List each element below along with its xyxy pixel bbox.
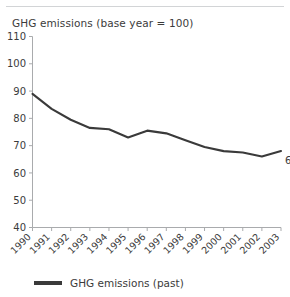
y-tick-label: 70 xyxy=(13,140,26,151)
x-tick-label: 1990 xyxy=(8,231,33,256)
line-chart-plot: 4050607080901001101990199119921993199419… xyxy=(0,0,290,297)
y-tick-label: 90 xyxy=(13,86,26,97)
x-tick-label: 1996 xyxy=(123,231,148,256)
y-tick-label: 50 xyxy=(13,195,26,206)
y-tick-label: 110 xyxy=(7,31,26,42)
x-tick-label: 1993 xyxy=(65,231,90,256)
x-tick-label: 2000 xyxy=(199,231,224,256)
x-tick-label: 1995 xyxy=(104,231,129,256)
x-tick-label: 1994 xyxy=(84,231,109,256)
y-tick-label: 100 xyxy=(7,58,26,69)
x-tick-label: 2003 xyxy=(257,231,282,256)
x-tick-label: 2001 xyxy=(218,231,243,256)
x-tick-label: 1998 xyxy=(161,231,186,256)
legend-label-ghg-emissions-past: GHG emissions (past) xyxy=(70,277,184,289)
x-tick-label: 1992 xyxy=(46,231,71,256)
x-tick-label: 2002 xyxy=(237,231,262,256)
series-line-0 xyxy=(33,94,282,157)
x-tick-label: 1997 xyxy=(142,231,167,256)
legend-swatch-ghg-emissions-past xyxy=(34,281,62,285)
y-tick-label: 60 xyxy=(13,168,26,179)
data-point-label: 68 xyxy=(285,155,290,166)
x-tick-label: 1991 xyxy=(27,231,52,256)
y-tick-label: 80 xyxy=(13,113,26,124)
x-tick-label: 1999 xyxy=(180,231,205,256)
chart-figure: GHG emissions (base year = 100) 40506070… xyxy=(0,0,290,297)
chart-legend: GHG emissions (past) xyxy=(34,277,184,289)
